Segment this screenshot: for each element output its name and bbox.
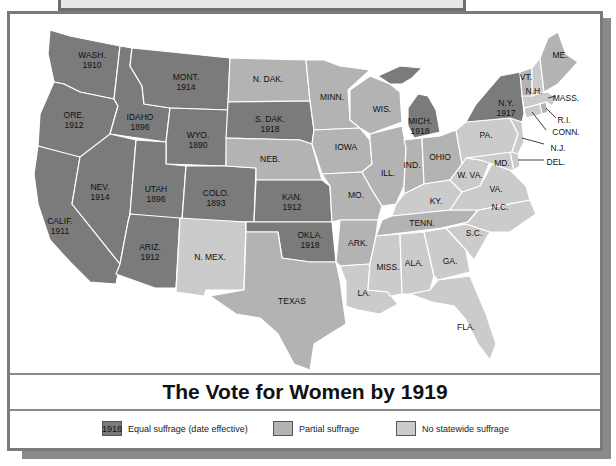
state-label-ny: N.Y.: [498, 98, 513, 108]
legend-item-equal: 1918 Equal suffrage (date effective): [102, 421, 248, 436]
state-label-fl: FLA.: [457, 322, 475, 332]
state-label-ri: R.I.: [557, 115, 570, 125]
legend-item-partial: Partial suffrage: [273, 421, 359, 436]
state-label-me: ME.: [552, 50, 567, 60]
state-label-nh: N.H.: [526, 86, 543, 96]
state-year-mt: 1914: [177, 82, 196, 92]
state-label-mt: MONT.: [173, 72, 199, 82]
state-year-ut: 1896: [147, 194, 166, 204]
state-year-ks: 1912: [283, 202, 302, 212]
state-year-ok: 1918: [301, 240, 320, 250]
state-year-ca: 1911: [51, 226, 70, 236]
state-label-ut: UTAH: [145, 184, 168, 194]
legend-item-none: No statewide suffrage: [396, 421, 509, 436]
state-label-pa: PA.: [479, 130, 492, 140]
state-year-wa: 1910: [83, 60, 102, 70]
state-label-ky: KY.: [430, 196, 443, 206]
state-label-ct: CONN.: [552, 127, 579, 137]
state-label-de: DEL.: [547, 157, 566, 167]
state-label-nv: NEV.: [90, 182, 109, 192]
map-title-band: The Vote for Women by 1919: [10, 373, 600, 411]
legend-label-partial: Partial suffrage: [299, 424, 359, 434]
state-label-nd: N. DAK.: [253, 74, 284, 84]
state-label-tn: TENN.: [409, 218, 435, 228]
state-label-wi: WIS.: [373, 104, 391, 114]
legend-swatch-none: [396, 421, 416, 436]
state-year-id: 1896: [131, 122, 150, 132]
state-label-oh: OHIO: [429, 152, 451, 162]
state-label-nm: N. MEX.: [194, 252, 226, 262]
state-label-co: COLO.: [203, 188, 229, 198]
state-year-az: 1912: [141, 252, 160, 262]
state-label-ar: ARK.: [348, 238, 368, 248]
state-me[interactable]: [540, 32, 578, 92]
legend-label-none: No statewide suffrage: [422, 424, 509, 434]
state-label-mi: MICH.: [408, 116, 432, 126]
leader-line-ri: [546, 108, 556, 118]
state-year-ny: 1917: [497, 108, 516, 118]
state-label-wy: WYO.: [187, 130, 210, 140]
state-label-ne: NEB.: [260, 154, 280, 164]
state-label-ga: GA.: [443, 256, 458, 266]
state-label-az: ARIZ.: [139, 242, 161, 252]
state-label-sd: S. DAK.: [255, 114, 285, 124]
state-label-tx: TEXAS: [278, 296, 306, 306]
state-label-la: LA.: [358, 288, 371, 298]
state-year-or: 1912: [65, 120, 84, 130]
state-label-ia: IOWA: [335, 142, 358, 152]
state-label-nc: N.C.: [492, 202, 509, 212]
state-label-ma: MASS.: [553, 93, 579, 103]
state-label-al: ALA.: [405, 258, 423, 268]
state-label-md: MD.: [494, 158, 510, 168]
leader-line-nj: [522, 138, 544, 144]
state-label-ca: CALIF.: [47, 216, 73, 226]
state-label-wv: W. VA.: [457, 170, 482, 180]
legend-swatch-partial: [273, 421, 293, 436]
state-year-co: 1893: [207, 198, 226, 208]
state-label-wa: WASH.: [78, 50, 106, 60]
state-year-wy: 1890: [189, 140, 208, 150]
legend: 1918 Equal suffrage (date effective) Par…: [10, 411, 600, 448]
us-map-svg: WASH.1910ORE.1912CALIF.1911IDAHO1896NEV.…: [10, 14, 600, 373]
state-label-ms: MISS.: [376, 262, 399, 272]
state-year-nv: 1914: [91, 192, 110, 202]
state-label-in: IND.: [404, 160, 421, 170]
state-year-mi: 1918: [411, 126, 430, 136]
state-label-or: ORE.: [64, 110, 85, 120]
state-label-nj: N.J.: [550, 143, 565, 153]
map-title: The Vote for Women by 1919: [162, 380, 447, 404]
state-label-mn: MINN.: [320, 92, 344, 102]
state-year-sd: 1918: [261, 124, 280, 134]
state-label-id: IDAHO: [127, 112, 154, 122]
top-caption-banner: [58, 0, 466, 11]
state-label-mo: MO.: [348, 190, 364, 200]
state-label-ks: KAN.: [282, 192, 302, 202]
legend-swatch-equal: 1918: [102, 421, 122, 436]
state-label-vt: VT.: [520, 72, 532, 82]
us-map: WASH.1910ORE.1912CALIF.1911IDAHO1896NEV.…: [10, 14, 600, 373]
map-frame: WASH.1910ORE.1912CALIF.1911IDAHO1896NEV.…: [7, 11, 603, 451]
state-label-va: VA.: [489, 184, 502, 194]
legend-label-equal: Equal suffrage (date effective): [128, 424, 248, 434]
state-label-il: ILL.: [381, 168, 395, 178]
state-label-ok: OKLA.: [297, 230, 322, 240]
state-label-sc: S.C.: [466, 228, 483, 238]
